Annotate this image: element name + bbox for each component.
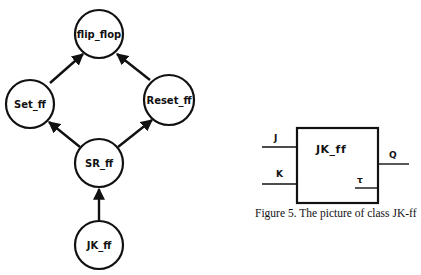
edge-sr-to-reset <box>118 120 152 147</box>
node-label: JK_ff <box>86 240 112 252</box>
node-label: SR_ff <box>85 158 114 170</box>
node-reset-ff: Reset_ff <box>144 75 194 125</box>
node-sr-ff: SR_ff <box>75 139 123 187</box>
jk-block: JK_ff J K Q τ <box>262 128 409 203</box>
edge-reset-to-flipflop <box>117 54 150 80</box>
edge-sr-to-set <box>49 122 80 147</box>
figure-caption: Figure 5. The picture of class JK-ff <box>255 207 417 219</box>
node-jk-ff: JK_ff <box>75 221 123 269</box>
jk-block-title: JK_ff <box>315 143 346 156</box>
input-j-label: J <box>273 133 277 143</box>
output-q-label: Q <box>389 150 397 160</box>
node-label: flip_flop <box>77 29 121 41</box>
input-k-label: K <box>276 169 284 179</box>
jk-block-body <box>297 128 378 203</box>
edge-set-to-flipflop <box>50 54 83 83</box>
edges <box>49 54 152 221</box>
node-label: Reset_ff <box>146 95 192 107</box>
node-set-ff: Set_ff <box>6 80 54 128</box>
clock-label: τ <box>357 175 363 185</box>
node-flip-flop: flip_flop <box>75 10 123 58</box>
diagram-canvas: flip_flop Set_ff Reset_ff SR_ff JK_ff JK… <box>0 0 421 275</box>
node-label: Set_ff <box>14 99 47 111</box>
